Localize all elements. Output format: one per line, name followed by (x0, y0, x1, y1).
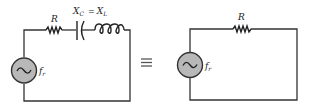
reactance-equality-label: XC=XL (72, 6, 107, 17)
resistor-label: R (237, 12, 245, 22)
right-wire-top-left (190, 29, 233, 52)
resistor-icon (46, 27, 62, 33)
inductor-icon (95, 24, 124, 33)
circuit-equivalence-diagram: R fr XC=XL ≡ R fr (0, 0, 311, 109)
left-wire-top-left (24, 30, 46, 57)
right-circuit: R fr (178, 12, 298, 100)
resistor-label: R (50, 14, 58, 24)
source-frequency-label: fr (204, 61, 212, 72)
resistor-icon (233, 26, 251, 32)
left-circuit: R fr XC=XL (12, 6, 131, 101)
source-frequency-label: fr (38, 66, 46, 77)
